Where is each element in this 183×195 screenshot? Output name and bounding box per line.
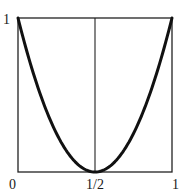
- chart: 1 0 1/2 1: [0, 0, 183, 195]
- x-tick-half: 1/2: [86, 177, 104, 192]
- y-tick-1: 1: [3, 12, 10, 27]
- x-tick-0: 0: [9, 177, 16, 192]
- x-tick-1: 1: [172, 177, 179, 192]
